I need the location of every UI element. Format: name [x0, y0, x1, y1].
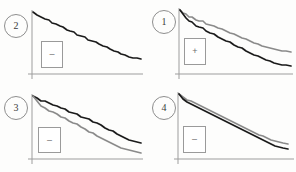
panel-top-right: 1+ — [148, 0, 296, 86]
legend-symbol-box: – — [183, 126, 206, 153]
minus-sign-icon: – — [192, 135, 197, 144]
minus-sign-icon: – — [49, 50, 54, 59]
legend-symbol-box: – — [38, 127, 61, 153]
panel-bottom-left: 3– — [0, 86, 148, 172]
legend-symbol-box: + — [184, 38, 206, 65]
panel-bottom-right: 4– — [148, 86, 296, 172]
panel-number-badge: 4 — [152, 96, 176, 120]
plus-sign-icon: + — [192, 47, 197, 56]
minus-sign-icon: – — [47, 136, 52, 145]
panel-number-badge: 2 — [4, 14, 28, 38]
panel-number-badge: 3 — [4, 96, 28, 120]
legend-symbol-box: – — [41, 41, 63, 68]
panel-plot-area — [0, 0, 148, 86]
panel-top-left: 2– — [0, 0, 148, 86]
figure-panel-grid: 2– 1+ 3– 4– — [0, 0, 296, 172]
panel-number-badge: 1 — [152, 10, 176, 34]
